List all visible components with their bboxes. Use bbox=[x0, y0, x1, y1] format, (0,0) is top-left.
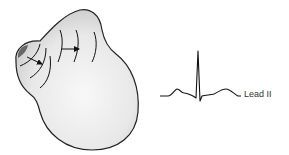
ecg-trace bbox=[160, 51, 241, 101]
heart-outline bbox=[16, 10, 139, 150]
diagram-canvas bbox=[0, 0, 289, 155]
ecg-lead-label: Lead II bbox=[244, 89, 272, 100]
